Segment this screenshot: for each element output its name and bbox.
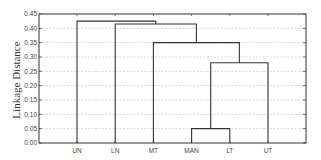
dendrogram-chart: 0.000.050.100.150.200.250.300.350.400.45… (0, 0, 321, 160)
leaf-label-man: MAN (184, 147, 199, 154)
y-tick-label: 0.15 (24, 96, 37, 103)
leaf-label-lt: LT (226, 147, 233, 154)
y-tick-label: 0.00 (24, 139, 37, 146)
plot-frame (39, 14, 306, 143)
dendrogram-link (115, 24, 196, 143)
leaf-label-ln: LN (111, 147, 120, 154)
y-tick-label: 0.10 (24, 111, 37, 118)
y-tick-label: 0.35 (24, 39, 37, 46)
leaf-label-un: UN (72, 147, 82, 154)
dendrogram-link (77, 21, 156, 143)
y-axis-ticks: 0.000.050.100.150.200.250.300.350.400.45 (24, 10, 306, 146)
top-axis-ticks (77, 14, 268, 143)
dendrogram-link (211, 63, 268, 143)
y-tick-label: 0.05 (24, 125, 37, 132)
dendrogram-link (192, 129, 230, 143)
y-tick-label: 0.45 (24, 10, 37, 17)
leaf-label-mt: MT (149, 147, 158, 154)
y-tick-label: 0.20 (24, 82, 37, 89)
dendrogram-links (77, 21, 268, 143)
leaf-label-ut: UT (264, 147, 273, 154)
y-tick-label: 0.40 (24, 25, 37, 32)
y-axis-label: Linkage Distance (10, 41, 22, 118)
leaf-labels: UNLNMTMANLTUT (72, 147, 272, 154)
y-tick-label: 0.30 (24, 53, 37, 60)
dendrogram-link (153, 43, 239, 143)
y-tick-label: 0.25 (24, 68, 37, 75)
grid-lines (39, 28, 306, 128)
